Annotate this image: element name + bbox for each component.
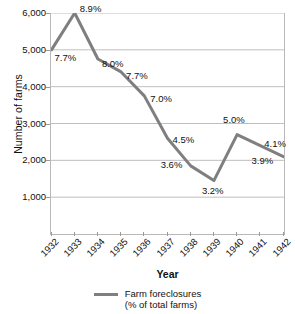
data-point-label: 3.2%: [202, 185, 224, 196]
legend-label: Farm foreclosures (% of total farms): [125, 288, 202, 310]
chart-legend: Farm foreclosures (% of total farms): [0, 288, 295, 310]
plot-area: 7.7%8.9%8.0%7.7%7.0%4.5%3.6%3.2%5.0%4.1%…: [50, 13, 285, 235]
x-axis-tick-label: 1938: [172, 236, 200, 264]
x-axis-tick-mark: [143, 232, 144, 236]
x-axis-tick-label: 1940: [218, 236, 246, 264]
x-axis-tick-label: 1932: [33, 236, 61, 264]
data-point-label: 7.7%: [55, 52, 77, 63]
x-axis-tick-label: 1941: [241, 236, 269, 264]
chart-plot-svg: [51, 13, 284, 234]
x-axis-tick-label: 1934: [79, 236, 107, 264]
x-axis-tick-mark: [120, 232, 121, 236]
y-axis-tick-label: 5,000: [14, 44, 46, 55]
x-axis-tick-mark: [167, 232, 168, 236]
data-point-label: 3.6%: [161, 159, 183, 170]
data-point-label: 8.0%: [102, 58, 124, 69]
y-axis-tick-label: 1,000: [14, 191, 46, 202]
legend-label-line1: Farm foreclosures: [125, 288, 202, 299]
y-axis-tick-label: 4,000: [14, 81, 46, 92]
legend-entry: Farm foreclosures (% of total farms): [94, 288, 202, 310]
y-axis-tick-labels: 6,0005,0004,0003,0002,0001,000: [12, 0, 46, 240]
x-axis-tick-mark: [74, 232, 75, 236]
x-axis-tick-label: 1937: [149, 236, 177, 264]
x-axis-tick-mark: [259, 232, 260, 236]
x-axis-tick-mark: [97, 232, 98, 236]
x-axis-tick-mark: [283, 232, 284, 236]
x-axis-tick-label: 1935: [102, 236, 130, 264]
x-axis-title: Year: [50, 268, 285, 280]
legend-line-swatch-icon: [94, 293, 118, 296]
farm-foreclosures-line-chart: Number of farms 6,0005,0004,0003,0002,00…: [0, 0, 295, 314]
x-axis-tick-labels: 1932193319341935193619371938193919401941…: [50, 236, 285, 270]
data-point-label: 7.7%: [126, 70, 148, 81]
data-point-label: 4.5%: [173, 134, 195, 145]
x-axis-tick-label: 1942: [265, 236, 293, 264]
y-axis-tick-label: 2,000: [14, 154, 46, 165]
data-point-label: 5.0%: [223, 114, 245, 125]
x-axis-tick-mark: [51, 232, 52, 236]
x-axis-tick-mark: [190, 232, 191, 236]
y-axis-tick-label: 6,000: [14, 7, 46, 18]
data-point-label: 3.9%: [252, 155, 274, 166]
x-axis-tick-mark: [213, 232, 214, 236]
x-axis-tick-label: 1939: [195, 236, 223, 264]
data-point-label: 8.9%: [80, 3, 102, 14]
x-axis-tick-mark: [236, 232, 237, 236]
y-axis-tick-label: 3,000: [14, 118, 46, 129]
data-point-label: 7.0%: [150, 93, 172, 104]
data-point-label: 4.1%: [264, 138, 286, 149]
x-axis-tick-label: 1936: [125, 236, 153, 264]
x-axis-tick-label: 1933: [56, 236, 84, 264]
legend-label-line2: (% of total farms): [125, 299, 202, 310]
